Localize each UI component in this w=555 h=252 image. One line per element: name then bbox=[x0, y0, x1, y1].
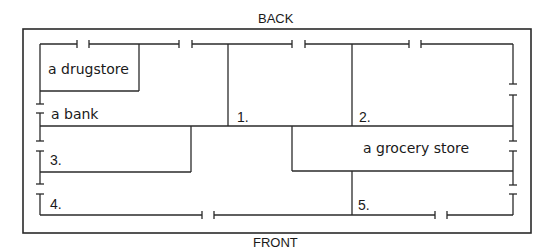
space-3-label: 3. bbox=[50, 152, 62, 168]
floor-plan bbox=[0, 0, 555, 252]
room-grocery-label: a grocery store bbox=[363, 140, 469, 156]
room-drugstore-label: a drugstore bbox=[48, 61, 129, 77]
room-bank-label: a bank bbox=[51, 106, 98, 122]
space-4-label: 4. bbox=[50, 196, 62, 212]
space-2-label: 2. bbox=[359, 109, 371, 125]
space-5-label: 5. bbox=[358, 197, 370, 213]
outer-border bbox=[23, 29, 531, 233]
space-1-label: 1. bbox=[237, 109, 249, 125]
